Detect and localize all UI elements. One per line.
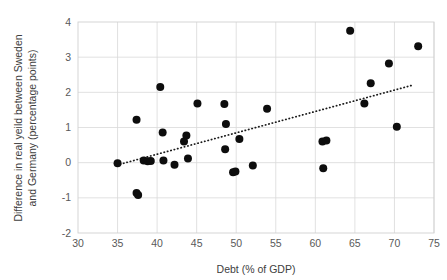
- data-point: [231, 167, 239, 175]
- data-point: [134, 191, 142, 199]
- data-point: [156, 83, 164, 91]
- y-tick-label: 3: [65, 51, 71, 63]
- data-point: [414, 42, 422, 50]
- data-point: [235, 135, 243, 143]
- data-point: [114, 159, 122, 167]
- data-point: [221, 145, 229, 153]
- scatter-chart: 30354045505560657075 43210-1-2 Debt (% o…: [0, 0, 447, 280]
- y-tick-label: 4: [65, 16, 71, 28]
- data-point: [319, 164, 327, 172]
- trend-line: [117, 85, 414, 165]
- data-point: [385, 59, 393, 67]
- data-points: [114, 27, 423, 199]
- data-point: [184, 154, 192, 162]
- x-tick-label: 55: [270, 237, 282, 249]
- x-tick-label: 65: [349, 237, 361, 249]
- data-point: [263, 105, 271, 113]
- data-point: [159, 128, 167, 136]
- x-tick-label: 35: [112, 237, 124, 249]
- trendline-dotted: [117, 85, 414, 165]
- y-axis-tick-labels: 43210-1-2: [62, 16, 72, 239]
- data-point: [220, 100, 228, 108]
- x-axis-tick-labels: 30354045505560657075: [72, 237, 440, 249]
- data-point: [346, 27, 354, 35]
- x-tick-label: 75: [428, 237, 440, 249]
- y-axis-title-line1: Difference in real yeild between Sweden: [12, 34, 24, 221]
- y-tick-label: 1: [65, 121, 71, 133]
- y-axis-title-line2: and Germany (percentage points): [26, 49, 38, 206]
- x-tick-label: 40: [151, 237, 163, 249]
- x-tick-label: 70: [389, 237, 401, 249]
- x-tick-label: 50: [230, 237, 242, 249]
- data-point: [360, 100, 368, 108]
- y-tick-label: -2: [62, 227, 71, 239]
- x-axis-title: Debt (% of GDP): [217, 263, 296, 275]
- data-point: [322, 137, 330, 145]
- data-point: [249, 161, 257, 169]
- data-point: [133, 116, 141, 124]
- data-point: [182, 132, 190, 140]
- data-point: [222, 120, 230, 128]
- data-point: [393, 123, 401, 131]
- y-tick-label: -1: [62, 191, 71, 203]
- x-tick-label: 30: [72, 237, 84, 249]
- y-tick-label: 0: [65, 156, 71, 168]
- x-tick-label: 45: [191, 237, 203, 249]
- data-point: [171, 161, 179, 169]
- data-point: [367, 79, 375, 87]
- y-tick-label: 2: [65, 86, 71, 98]
- chart-canvas: 30354045505560657075 43210-1-2 Debt (% o…: [0, 0, 447, 280]
- x-tick-label: 60: [309, 237, 321, 249]
- data-point: [193, 100, 201, 108]
- data-point: [147, 157, 155, 165]
- data-point: [159, 157, 167, 165]
